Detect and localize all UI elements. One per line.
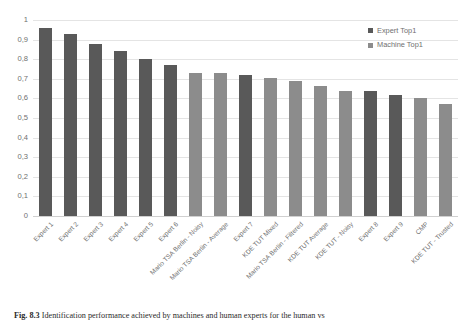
y-axis-tick-label: 0,6 <box>17 95 28 103</box>
bar <box>364 91 377 216</box>
bar <box>39 28 52 216</box>
x-axis-tick-label: CMP <box>414 221 429 236</box>
bar-chart: 00,10,20,30,40,50,60,70,80,91 Expert 1Ex… <box>0 6 460 306</box>
y-axis-tick-label: 0,7 <box>17 75 28 83</box>
gridline <box>33 216 458 217</box>
bar <box>239 75 252 216</box>
legend-item[interactable]: Expert Top1 <box>368 27 454 34</box>
bar <box>289 81 302 216</box>
legend-item-label: Expert Top1 <box>377 27 416 34</box>
x-axis-tick-label: Expert 2 <box>57 221 79 243</box>
bar <box>389 95 402 216</box>
bar <box>214 73 227 216</box>
y-axis-tick-label: 0,4 <box>17 134 28 142</box>
y-axis-tick-label: 1 <box>24 16 28 24</box>
y-axis-tick-label: 0,3 <box>17 153 28 161</box>
legend-swatch-icon <box>368 28 373 33</box>
bar <box>164 65 177 216</box>
bar <box>264 78 277 216</box>
y-axis-tick-label: 0,8 <box>17 55 28 63</box>
bar <box>89 44 102 216</box>
figure-caption: Fig. 8.3 Identification performance achi… <box>14 311 454 320</box>
bar <box>139 59 152 216</box>
bar <box>64 34 77 216</box>
bar <box>189 73 202 216</box>
x-axis-tick-label: Expert 1 <box>32 221 54 243</box>
bar <box>439 104 452 216</box>
y-axis-tick-label: 0,2 <box>17 173 28 181</box>
bar <box>114 51 127 216</box>
figure-panel: 00,10,20,30,40,50,60,70,80,91 Expert 1Ex… <box>0 0 460 324</box>
x-axis-tick-label: Expert 7 <box>232 221 254 243</box>
y-axis-tick-label: 0,1 <box>17 193 28 201</box>
x-axis-tick-label: Expert 8 <box>357 221 379 243</box>
y-axis-tick-label: 0,9 <box>17 36 28 44</box>
legend-item-label: Machine Top1 <box>377 41 423 48</box>
figure-caption-text: Identification performance achieved by m… <box>42 311 325 320</box>
x-axis-tick-label: Expert 4 <box>107 221 129 243</box>
chart-legend: Expert Top1Machine Top1 <box>364 24 456 53</box>
bar <box>414 98 427 216</box>
legend-swatch-icon <box>368 43 373 48</box>
figure-caption-number: Fig. 8.3 <box>14 311 40 320</box>
y-axis-tick-label: 0 <box>24 212 28 220</box>
x-axis-tick-label: Expert 9 <box>382 221 404 243</box>
y-axis-tick-label: 0,5 <box>17 114 28 122</box>
x-axis-tick-label: Expert 5 <box>132 221 154 243</box>
x-axis-tick-label: Expert 3 <box>82 221 104 243</box>
x-axis-tick-label: Expert 6 <box>157 221 179 243</box>
bar <box>339 91 352 216</box>
x-axis-tick-labels: Expert 1Expert 2Expert 3Expert 4Expert 5… <box>33 218 458 313</box>
legend-item[interactable]: Machine Top1 <box>368 41 454 48</box>
bar <box>314 86 327 216</box>
